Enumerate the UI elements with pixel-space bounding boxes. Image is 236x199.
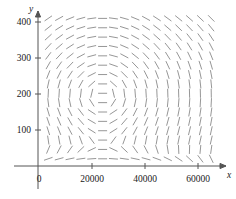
- field-segment: [164, 25, 171, 31]
- field-segment: [175, 25, 181, 31]
- field-segment: [146, 89, 147, 98]
- field-segment: [153, 16, 161, 21]
- field-segment: [58, 98, 59, 107]
- field-segment: [48, 98, 49, 107]
- field-segment: [164, 157, 172, 161]
- field-segment: [57, 127, 60, 135]
- x-tick-label: 0: [37, 174, 42, 184]
- field-segment: [167, 126, 169, 135]
- field-segment: [178, 136, 180, 145]
- field-segment: [153, 157, 161, 160]
- field-segment: [178, 98, 179, 107]
- field-segment: [154, 34, 161, 40]
- field-segment: [58, 136, 60, 145]
- field-segment: [122, 80, 126, 88]
- field-segment: [189, 79, 190, 88]
- field-segment: [87, 27, 96, 28]
- field-segment: [178, 117, 180, 126]
- field-segment: [144, 71, 148, 79]
- field-segment: [76, 158, 85, 159]
- field-segment: [45, 16, 52, 21]
- field-segment: [123, 136, 126, 144]
- field-segment: [200, 117, 202, 126]
- field-segment: [87, 36, 96, 38]
- field-segment: [67, 62, 73, 68]
- y-tick-label: 400: [17, 17, 32, 27]
- field-segment: [211, 145, 212, 154]
- field-segment: [47, 126, 50, 135]
- field-segment: [56, 34, 63, 39]
- field-segment: [142, 34, 149, 39]
- field-segment: [167, 108, 169, 117]
- field-segment: [132, 62, 138, 68]
- field-segment: [122, 127, 128, 134]
- field-segment: [121, 146, 128, 152]
- field-segment: [109, 18, 118, 19]
- field-segment: [144, 108, 147, 116]
- field-segment: [78, 146, 85, 152]
- field-segment: [145, 80, 147, 89]
- y-axis-arrowhead: [35, 11, 40, 17]
- field-segment: [122, 108, 127, 115]
- field-segment: [188, 126, 190, 135]
- field-segment: [58, 108, 61, 116]
- x-tick-label: 20000: [80, 174, 104, 184]
- field-segment: [155, 61, 159, 69]
- field-segment: [45, 25, 52, 31]
- field-segment: [165, 34, 171, 40]
- field-segment: [66, 158, 75, 160]
- field-segment: [44, 157, 53, 160]
- field-segment: [167, 117, 169, 126]
- field-segment: [88, 81, 95, 87]
- field-segment: [198, 33, 203, 40]
- field-segment: [58, 80, 60, 89]
- field-segment: [55, 25, 63, 30]
- field-segment: [134, 98, 136, 107]
- field-segment: [66, 44, 74, 49]
- field-segment: [132, 53, 139, 59]
- field-segment: [210, 61, 213, 70]
- field-segment: [57, 145, 61, 153]
- field-segment: [120, 45, 128, 49]
- slope-field-plot: 0200004000060000100200300400 y x: [0, 0, 236, 199]
- field-segment: [55, 16, 63, 20]
- field-segment: [167, 79, 169, 88]
- field-segment: [45, 43, 51, 50]
- field-segment: [47, 70, 50, 78]
- field-segment: [111, 99, 116, 107]
- field-segment: [176, 43, 181, 50]
- field-segment: [89, 99, 94, 107]
- field-segment: [131, 17, 139, 20]
- field-segment: [109, 64, 117, 67]
- field-segment: [57, 117, 61, 125]
- field-segment: [69, 98, 71, 107]
- field-segment: [121, 63, 128, 68]
- field-segment: [88, 148, 96, 152]
- y-tick-label: 200: [17, 89, 32, 99]
- field-segment: [121, 118, 127, 125]
- field-segment: [45, 34, 52, 40]
- field-segment: [120, 36, 128, 39]
- field-segment: [55, 158, 64, 160]
- field-segment: [211, 108, 212, 117]
- field-segment: [77, 63, 84, 68]
- field-segment: [109, 27, 118, 28]
- field-segment: [77, 26, 86, 29]
- field-segment: [200, 145, 201, 154]
- field-segment: [47, 117, 50, 126]
- field-segment: [109, 73, 117, 77]
- field-segment: [78, 71, 84, 77]
- x-tick-label: 40000: [133, 174, 157, 184]
- field-segment: [178, 108, 180, 117]
- direction-field: [44, 15, 214, 163]
- field-segment: [91, 89, 93, 98]
- field-segment: [143, 62, 148, 69]
- field-segment: [131, 26, 139, 30]
- field-segment: [175, 16, 182, 22]
- field-segment: [66, 53, 73, 59]
- field-segment: [177, 61, 180, 69]
- field-segment: [57, 71, 61, 79]
- field-segment: [133, 117, 138, 125]
- field-segment: [133, 127, 137, 135]
- field-segment: [80, 98, 83, 107]
